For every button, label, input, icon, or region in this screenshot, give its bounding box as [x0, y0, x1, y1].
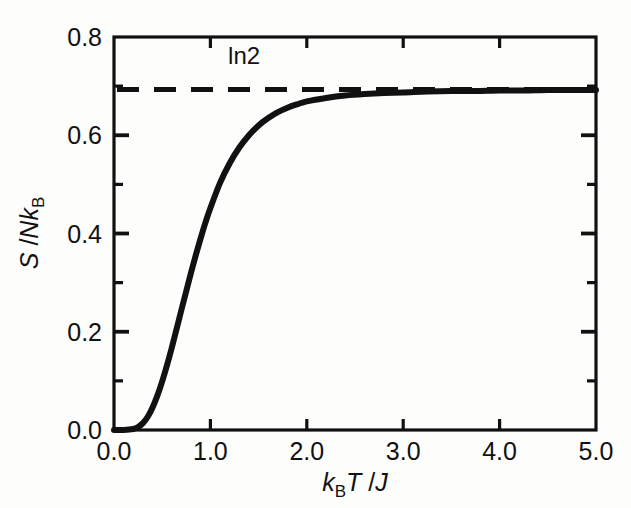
- chart-canvas: 0.01.02.03.04.05.0 0.00.20.40.60.8 ln2 k…: [0, 0, 631, 508]
- y-title-N: N: [15, 220, 43, 239]
- x-tick-label: 3.0: [386, 437, 421, 465]
- chart-figure: 0.01.02.03.04.05.0 0.00.20.40.60.8 ln2 k…: [0, 0, 631, 508]
- y-title-sub-B: B: [29, 197, 48, 208]
- y-tick-label: 0.2: [67, 318, 102, 346]
- y-tick-label: 0.6: [67, 121, 102, 149]
- y-tick-label: 0.8: [67, 23, 102, 51]
- x-title-slash: /: [361, 468, 375, 496]
- y-title-S: S: [15, 252, 43, 269]
- y-title-slash: /: [15, 239, 43, 253]
- y-tick-label: 0.0: [67, 416, 102, 444]
- y-tick-label: 0.4: [67, 220, 102, 248]
- x-tick-label: 1.0: [193, 437, 228, 465]
- ln2-label: ln2: [228, 42, 260, 69]
- x-title-J: J: [374, 468, 388, 496]
- x-tick-label: 5.0: [579, 437, 614, 465]
- x-tick-label: 2.0: [289, 437, 324, 465]
- x-tick-label: 4.0: [482, 437, 517, 465]
- x-title-sub-B: B: [335, 482, 346, 501]
